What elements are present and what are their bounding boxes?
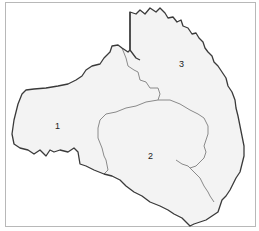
region-label-1: 1 [55,121,60,131]
region-label-3: 3 [179,59,184,69]
region-label-2: 2 [148,151,153,161]
map-canvas: 1 2 3 [0,0,259,231]
